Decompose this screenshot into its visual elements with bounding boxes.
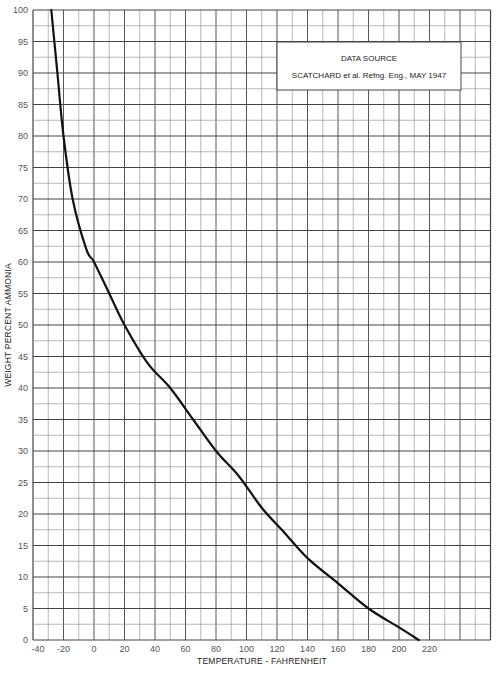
- x-tick-label: 120: [269, 644, 284, 654]
- horizontal-gridlines: [33, 10, 491, 640]
- x-tick-label: -20: [57, 644, 70, 654]
- x-tick-label: 40: [150, 644, 160, 654]
- y-tick-label: 35: [18, 415, 28, 425]
- y-tick-label: 95: [18, 37, 28, 47]
- x-tick-label: 0: [91, 644, 96, 654]
- x-tick-label: 60: [180, 644, 190, 654]
- x-tick-label: 140: [300, 644, 315, 654]
- y-tick-label: 20: [18, 509, 28, 519]
- y-tick-label: 50: [18, 320, 28, 330]
- y-tick-label: 45: [18, 352, 28, 362]
- y-tick-label: 60: [18, 257, 28, 267]
- x-axis-tick-labels: -40-20020406080100120140160180200220: [31, 644, 437, 654]
- y-tick-label: 75: [18, 163, 28, 173]
- x-axis-title: TEMPERATURE - FAHRENHEIT: [197, 656, 327, 666]
- y-tick-label: 0: [23, 635, 28, 645]
- x-tick-label: 160: [330, 644, 345, 654]
- y-tick-label: 90: [18, 68, 28, 78]
- data-source-citation: SCATCHARD et al. Refng. Eng., MAY 1947: [292, 71, 447, 80]
- y-tick-label: 5: [23, 604, 28, 614]
- y-axis-title: WEIGHT PERCENT AMMONIA: [3, 263, 13, 387]
- y-tick-label: 100: [13, 5, 28, 15]
- x-tick-label: 220: [422, 644, 437, 654]
- y-tick-label: 40: [18, 383, 28, 393]
- data-source-box: DATA SOURCE SCATCHARD et al. Refng. Eng.…: [277, 42, 461, 90]
- x-tick-label: 20: [119, 644, 129, 654]
- x-tick-label: 100: [239, 644, 254, 654]
- y-tick-label: 30: [18, 446, 28, 456]
- y-tick-label: 10: [18, 572, 28, 582]
- y-tick-label: 80: [18, 131, 28, 141]
- x-tick-label: -40: [31, 644, 44, 654]
- x-tick-label: 180: [361, 644, 376, 654]
- y-tick-label: 55: [18, 289, 28, 299]
- chart: 0510152025303540455055606570758085909510…: [0, 0, 499, 676]
- y-axis-tick-labels: 0510152025303540455055606570758085909510…: [13, 5, 28, 645]
- y-tick-label: 15: [18, 541, 28, 551]
- x-tick-label: 200: [391, 644, 406, 654]
- y-tick-label: 65: [18, 226, 28, 236]
- y-tick-label: 70: [18, 194, 28, 204]
- data-source-title: DATA SOURCE: [341, 54, 397, 63]
- y-tick-label: 25: [18, 478, 28, 488]
- x-tick-label: 80: [211, 644, 221, 654]
- y-tick-label: 85: [18, 100, 28, 110]
